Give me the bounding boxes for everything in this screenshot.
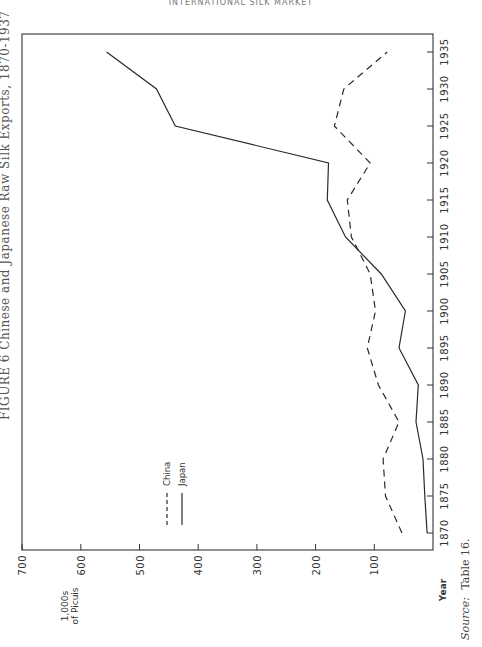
year-tick-label: 1935 <box>439 38 450 65</box>
year-tick-label: 1875 <box>439 482 450 509</box>
year-tick-label: 1915 <box>439 186 450 213</box>
running-header: INTERNATIONAL SILK MARKET <box>169 0 313 7</box>
year-tick-label: 1870 <box>439 519 450 546</box>
year-tick-label: 1925 <box>439 112 450 139</box>
year-tick-label: 1895 <box>439 334 450 361</box>
source-text: Table 16. <box>459 539 472 590</box>
value-axis-label-line2: of Picuis <box>70 587 80 624</box>
year-tick-label: 1880 <box>439 445 450 472</box>
value-axis-label-line1: 1,000s <box>60 590 70 621</box>
year-axis-label: Year <box>438 578 448 602</box>
value-tick-label: 500 <box>135 555 146 576</box>
year-tick-label: 1885 <box>439 408 450 435</box>
legend-label-china: China <box>162 462 172 486</box>
legend-item-china: China <box>162 462 172 525</box>
year-tick-label: 1900 <box>439 297 450 324</box>
year-axis: 1870187518801885189018951900190519101915… <box>427 38 450 546</box>
value-tick-label: 600 <box>76 555 87 576</box>
value-tick-label: 700 <box>17 555 28 576</box>
year-tick-label: 1930 <box>439 75 450 102</box>
value-tick-label: 100 <box>369 555 380 576</box>
plot-frame <box>22 34 433 550</box>
value-tick-label: 300 <box>252 555 263 576</box>
year-tick-label: 1905 <box>439 260 450 287</box>
source-label: Source: <box>459 597 472 640</box>
year-tick-label: 1910 <box>439 223 450 250</box>
figure-title: FIGURE 6 Chinese and Japanese Raw Silk E… <box>0 10 12 420</box>
legend: China Japan <box>162 462 187 525</box>
legend-label-japan: Japan <box>177 462 187 487</box>
value-axis-label: 1,000s of Picuis <box>60 587 80 624</box>
value-tick-label: 400 <box>193 555 204 576</box>
chart-figure: INTERNATIONAL SILK MARKET FIGURE 6 Chine… <box>0 0 482 647</box>
series-japan-line <box>107 52 428 533</box>
year-tick-label: 1890 <box>439 371 450 398</box>
series-china-line <box>334 52 402 533</box>
source-note: Source: Table 16. <box>459 539 472 641</box>
value-tick-label: 200 <box>311 555 322 576</box>
value-axis: 100200300400500600700 <box>17 544 380 576</box>
legend-item-japan: Japan <box>177 462 187 525</box>
year-tick-label: 1920 <box>439 149 450 176</box>
